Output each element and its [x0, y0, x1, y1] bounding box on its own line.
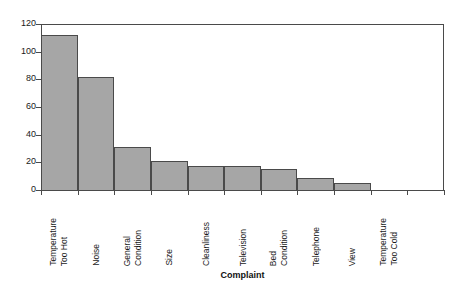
x-axis-category-stack: GeneralCondition [122, 196, 144, 266]
bar-slot [334, 24, 371, 190]
y-axis-tick-label-wrap: 120 [0, 19, 36, 28]
x-axis-category-slot: Telephone [297, 196, 334, 268]
x-axis-category-label: General [122, 236, 133, 266]
x-axis-category-stack: BedCondition [268, 196, 290, 266]
bar[interactable] [261, 169, 298, 190]
x-axis-tick [114, 190, 115, 195]
x-axis-tick [407, 190, 408, 195]
x-axis-tick [41, 190, 42, 195]
x-axis-tick [444, 190, 445, 195]
bar[interactable] [78, 77, 115, 190]
y-axis-tick-label-wrap: 60 [0, 102, 36, 111]
x-axis-category-stack: Size [164, 196, 175, 266]
x-axis-tick [261, 190, 262, 195]
x-axis-category-slot: Television [224, 196, 261, 268]
x-axis-category-slot: Cleanliness [188, 196, 225, 268]
x-axis-tick [151, 190, 152, 195]
bar[interactable] [188, 166, 225, 190]
x-axis-category-slot-empty [407, 196, 444, 268]
x-axis-category-stack: Cleanliness [200, 196, 211, 266]
x-axis-category-slot: GeneralCondition [114, 196, 151, 268]
x-axis-category-slot: View [334, 196, 371, 268]
bar-slot [371, 24, 408, 190]
y-axis-tick [36, 162, 42, 163]
y-axis-tick-label-wrap: 0 [0, 185, 36, 194]
x-axis-category-stack: TemperatureToo Cold [378, 196, 400, 266]
x-axis-category-label: Size [164, 249, 175, 266]
bar-slot [78, 24, 115, 190]
x-axis-ticks-group [41, 190, 444, 195]
bar-slot [297, 24, 334, 190]
x-axis-title: Complaint [41, 270, 444, 280]
y-axis-tick [36, 135, 42, 136]
bar[interactable] [151, 161, 188, 190]
y-axis-tick-label-wrap: 100 [0, 47, 36, 56]
y-axis-tick-label: 100 [2, 47, 36, 56]
bar[interactable] [297, 178, 334, 190]
y-axis-tick-label-wrap: 20 [0, 157, 36, 166]
x-axis-category-label: Temperature [48, 218, 59, 266]
x-axis-category-label: Temperature [378, 218, 389, 266]
x-axis-category-label: View [347, 248, 358, 266]
bar[interactable] [41, 35, 78, 190]
x-axis-tick [78, 190, 79, 195]
y-axis-tick [36, 24, 42, 25]
x-axis-category-label: Television [237, 229, 248, 266]
y-axis-tick-label-wrap: 40 [0, 130, 36, 139]
x-axis-category-stack: Television [237, 196, 248, 266]
x-axis-category-label: Noise [90, 244, 101, 266]
bars-layer [41, 24, 444, 190]
y-axis-tick-label: 120 [2, 19, 36, 28]
bar-slot-empty [407, 24, 444, 190]
x-axis-category-labels: TemperatureToo HotNoiseGeneralConditionS… [41, 196, 444, 268]
y-axis-tick-label: 0 [2, 185, 36, 194]
bar[interactable] [114, 147, 151, 190]
x-axis-category-label: Too Hot [59, 237, 70, 266]
x-axis-category-slot: BedCondition [261, 196, 298, 268]
x-axis-tick [224, 190, 225, 195]
bar[interactable] [334, 183, 371, 190]
x-axis-tick [297, 190, 298, 195]
y-axis-tick [36, 52, 42, 53]
y-axis-tick-label: 40 [2, 130, 36, 139]
pareto-bar-chart: 020406080100120 TemperatureToo HotNoiseG… [0, 0, 467, 294]
x-axis-category-slot: Noise [78, 196, 115, 268]
bar-slot [261, 24, 298, 190]
x-axis-category-label: Too Cold [389, 232, 400, 266]
x-axis-category-label: Condition [133, 230, 144, 266]
y-axis-tick [36, 107, 42, 108]
y-axis-tick-label: 80 [2, 74, 36, 83]
y-axis-tick [36, 79, 42, 80]
x-axis-category-label: Telephone [310, 227, 321, 266]
x-axis-category-label: Condition [279, 230, 290, 266]
y-axis-tick-label: 60 [2, 102, 36, 111]
x-axis-category-slot: Size [151, 196, 188, 268]
x-axis-category-label: Bed [268, 251, 279, 266]
y-axis-tick-label: 20 [2, 157, 36, 166]
x-axis-category-label: Cleanliness [200, 222, 211, 266]
x-axis-category-stack: Telephone [310, 196, 321, 266]
x-axis-category-stack: View [347, 196, 358, 266]
bar[interactable] [224, 166, 261, 190]
x-axis-tick [188, 190, 189, 195]
bar-slot [151, 24, 188, 190]
bar-slot [114, 24, 151, 190]
bar-slot [41, 24, 78, 190]
y-axis-tick-label-wrap: 80 [0, 74, 36, 83]
bar-slot [224, 24, 261, 190]
x-axis-category-stack: Noise [90, 196, 101, 266]
x-axis-tick [371, 190, 372, 195]
x-axis-tick [334, 190, 335, 195]
x-axis-category-slot: TemperatureToo Cold [371, 196, 408, 268]
x-axis-category-stack: TemperatureToo Hot [48, 196, 70, 266]
x-axis-category-slot: TemperatureToo Hot [41, 196, 78, 268]
bar-slot [188, 24, 225, 190]
